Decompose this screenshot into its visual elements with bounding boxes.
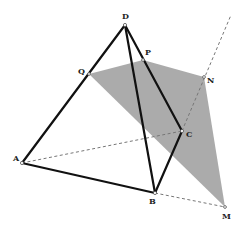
label-Q: Q — [78, 66, 85, 76]
label-D: D — [122, 11, 129, 21]
cross-section-plane — [89, 60, 225, 207]
point-B — [153, 191, 156, 194]
label-P: P — [145, 47, 151, 57]
label-N: N — [207, 75, 214, 85]
point-A — [20, 161, 23, 164]
label-B: B — [149, 196, 156, 206]
label-M: M — [222, 211, 231, 221]
point-C — [180, 129, 183, 132]
point-Q — [88, 73, 91, 76]
edge-AC-hidden — [22, 131, 182, 163]
point-N — [203, 76, 206, 79]
tetrahedron-diagram: D P Q N C A B M — [0, 0, 242, 232]
label-A: A — [12, 153, 20, 163]
point-P — [142, 59, 145, 62]
point-M — [224, 206, 227, 209]
label-C: C — [186, 129, 192, 139]
point-D — [123, 23, 126, 26]
edge-AB — [22, 163, 155, 193]
